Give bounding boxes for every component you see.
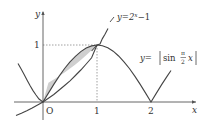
- x-axis-arrow-icon: [192, 100, 196, 103]
- x-tick-1: 1: [94, 106, 100, 116]
- svg-text:y=2x−1: y=2x−1: [116, 11, 150, 23]
- shaded-region: [43, 45, 97, 102]
- x-tick-2: 2: [148, 106, 154, 116]
- label-leader-line: [110, 17, 114, 22]
- svg-text:sin: sin: [163, 53, 176, 63]
- svg-text:x: x: [188, 53, 193, 63]
- y-axis-label: y: [34, 9, 41, 19]
- exponential-equation-label: y=2x−1: [116, 11, 150, 23]
- svg-text:y=: y=: [139, 53, 152, 63]
- abs-sine-equation-label: y= sin π 2 x: [139, 49, 196, 65]
- svg-text:π: π: [181, 49, 185, 56]
- origin-label: O: [46, 106, 53, 116]
- y-axis-arrow-icon: [41, 11, 44, 15]
- graph-canvas: y x O 1 2 1 y=2x−1 y= sin π 2 x: [0, 0, 216, 122]
- y-tick-1: 1: [34, 40, 40, 50]
- svg-text:2: 2: [181, 58, 185, 65]
- x-axis-label: x: [192, 105, 197, 115]
